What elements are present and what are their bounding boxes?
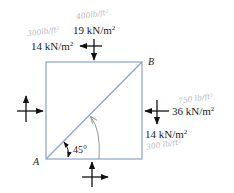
stress-element-diagram: 19 kN/m2 14 kN/m2 36 kN/m2 14 kN/m2 45° … bbox=[0, 0, 234, 193]
top-normal-stress-label: 19 kN/m2 bbox=[73, 25, 115, 36]
top-stress-arrows-icon bbox=[80, 39, 102, 60]
point-A-label: A bbox=[33, 157, 39, 167]
angle-label: 45° bbox=[73, 145, 87, 155]
element-square bbox=[46, 62, 142, 159]
left-stress-arrows-icon bbox=[17, 96, 43, 122]
right-normal-stress-label: 36 kN/m2 bbox=[172, 106, 214, 117]
bottom-stress-arrows-icon bbox=[82, 162, 108, 187]
diagonal-plane-AB bbox=[46, 62, 142, 159]
top-shear-stress-label: 14 kN/m2 bbox=[31, 41, 73, 52]
right-shear-stress-label: 14 kN/m2 bbox=[145, 129, 187, 140]
right-stress-arrows-icon bbox=[145, 100, 169, 124]
rotation-arc-icon bbox=[91, 117, 99, 159]
angle-arc-icon bbox=[64, 142, 69, 157]
point-B-label: B bbox=[148, 57, 154, 67]
